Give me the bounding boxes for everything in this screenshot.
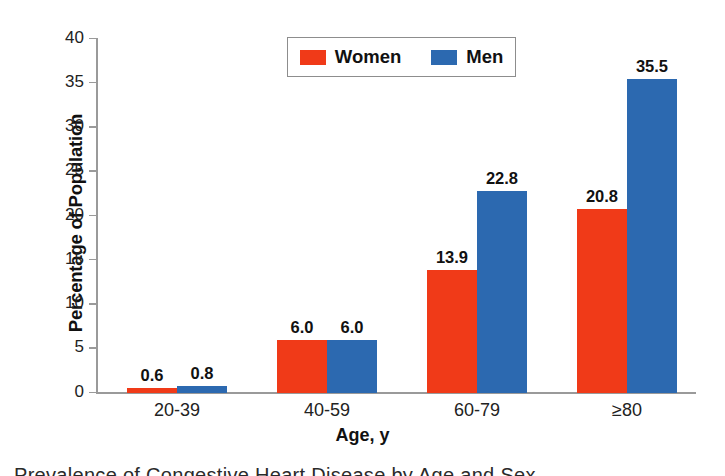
y-tick-40: 40 [89,38,96,40]
plot-area: 0510152025303540 0.60.86.06.013.922.820.… [96,38,696,393]
y-tick-label-20: 20 [44,205,84,225]
bar-women-20-39: 0.6 [127,388,177,393]
x-tick-label-≥80: ≥80 [612,400,642,421]
legend-swatch-men-icon [431,50,457,65]
bar-value-label: 13.9 [436,248,468,267]
bar-value-label: 0.8 [191,364,214,383]
bar-men-≥80: 35.5 [627,79,677,393]
bar-value-label: 35.5 [636,57,668,76]
y-tick-label-25: 25 [44,160,84,180]
x-tick-label-20-39: 20-39 [154,400,200,421]
legend-swatch-women-icon [300,50,326,65]
y-tick-35: 35 [89,82,96,84]
bar-women-≥80: 20.8 [577,209,627,393]
figure-caption-text: Prevalence of Congestive Heart Disease b… [0,466,725,476]
y-tick-25: 25 [89,170,96,172]
y-tick-label-5: 5 [44,337,84,357]
legend-label-women: Women [335,46,401,68]
bar-value-label: 0.6 [141,366,164,385]
bar-men-20-39: 0.8 [177,386,227,393]
x-tick-label-40-59: 40-59 [304,400,350,421]
y-tick-label-40: 40 [44,28,84,48]
legend-item-women: Women [300,46,401,68]
chart-legend: Women Men [287,37,516,77]
bar-value-label: 20.8 [586,187,618,206]
y-tick-label-30: 30 [44,116,84,136]
y-tick-20: 20 [89,215,96,217]
bar-women-40-59: 6.0 [277,340,327,393]
figure-caption-cropped: Prevalence of Congestive Heart Disease b… [0,466,725,476]
bar-value-label: 22.8 [486,169,518,188]
y-tick-30: 30 [89,126,96,128]
y-tick-15: 15 [89,259,96,261]
bar-value-label: 6.0 [341,318,364,337]
x-axis-title: Age, y [0,425,725,446]
y-tick-10: 10 [89,303,96,305]
y-tick-0: 0 [89,392,96,394]
y-tick-5: 5 [89,347,96,349]
y-tick-label-15: 15 [44,249,84,269]
bar-value-label: 6.0 [291,318,314,337]
legend-item-men: Men [431,46,503,68]
bar-women-60-79: 13.9 [427,270,477,393]
x-tick-label-60-79: 60-79 [454,400,500,421]
legend-label-men: Men [466,46,503,68]
y-axis-line [96,38,98,394]
bar-chart-figure: Percentage of Population 051015202530354… [0,0,725,476]
y-tick-label-10: 10 [44,293,84,313]
y-tick-label-0: 0 [44,382,84,402]
y-tick-label-35: 35 [44,72,84,92]
bar-men-60-79: 22.8 [477,191,527,393]
bar-men-40-59: 6.0 [327,340,377,393]
